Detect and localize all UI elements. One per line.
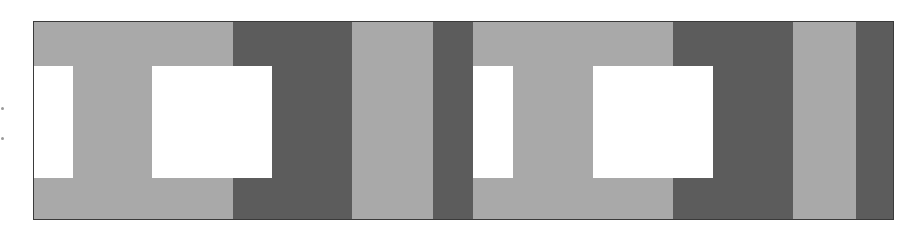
- margin-dot: [1, 137, 4, 140]
- light-gray-band: [352, 22, 433, 219]
- dark-gray-band: [856, 22, 894, 219]
- margin-dot: [1, 107, 4, 110]
- white-test-rectangle: [34, 66, 73, 178]
- white-test-rectangle: [593, 66, 713, 178]
- white-test-rectangle: [152, 66, 272, 178]
- light-gray-band: [793, 22, 856, 219]
- white-test-rectangle: [473, 66, 513, 178]
- illusion-figure: [33, 21, 894, 220]
- dark-gray-band: [433, 22, 473, 219]
